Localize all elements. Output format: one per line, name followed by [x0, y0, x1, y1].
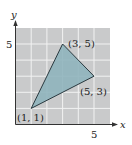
x-axis-label: x: [120, 119, 126, 130]
vertex-label-1-1: (1, 1): [17, 112, 44, 123]
vertex-label-3-5: (3, 5): [68, 38, 95, 49]
coordinate-plane-figure: y x 5 5 (1, 1) (3, 5) (5, 3): [0, 0, 132, 145]
vertex-label-5-3: (5, 3): [80, 86, 107, 97]
x-tick-label: 5: [91, 129, 97, 140]
y-axis-arrow-icon: [13, 20, 17, 26]
x-axis-arrow-icon: [112, 122, 118, 126]
y-axis-label: y: [10, 9, 17, 20]
y-tick-label: 5: [6, 39, 12, 50]
